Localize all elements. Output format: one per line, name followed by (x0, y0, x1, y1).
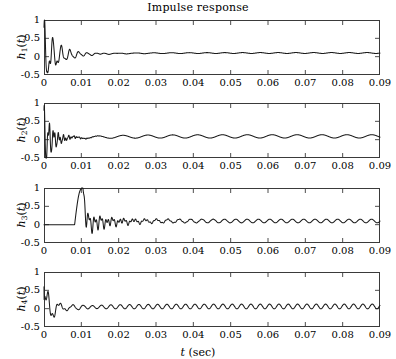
impulse-response-figure: Impulse response 10.50-0.5h1(t)00.010.02… (0, 0, 396, 359)
x-tick-label: 0.05 (211, 78, 251, 88)
plot-frame-h3 (44, 188, 380, 243)
x-tick-label: 0.06 (248, 78, 288, 88)
x-tick-label: 0 (24, 78, 64, 88)
y-axis-label-h4: h4(t) (15, 276, 29, 322)
x-tick-label: 0 (24, 161, 64, 171)
x-tick-label: 0.08 (323, 161, 363, 171)
x-tick-label: 0.08 (323, 78, 363, 88)
x-tick-label: 0.02 (99, 78, 139, 88)
x-tick-label: 0.06 (248, 330, 288, 340)
plot-frame-h4 (44, 272, 380, 327)
x-tick-label: 0.07 (285, 330, 325, 340)
x-tick-label: 0.06 (248, 161, 288, 171)
x-tick-label: 0.04 (173, 246, 213, 256)
x-tick-label: 0.07 (285, 246, 325, 256)
x-tick-label: 0.03 (136, 330, 176, 340)
x-tick-label: 0.05 (211, 330, 251, 340)
x-tick-label: 0.09 (360, 161, 396, 171)
x-tick-label: 0.04 (173, 78, 213, 88)
x-tick-label: 0.08 (323, 246, 363, 256)
x-tick-label: 0.03 (136, 246, 176, 256)
x-tick-label: 0.07 (285, 161, 325, 171)
x-tick-label: 0 (24, 330, 64, 340)
x-tick-label: 0.05 (211, 246, 251, 256)
figure-title: Impulse response (0, 1, 396, 14)
plot-frame-h2 (44, 103, 380, 158)
plot-frame-h1 (44, 20, 380, 75)
x-tick-label: 0.01 (61, 246, 101, 256)
x-axis-label: t (sec) (0, 346, 396, 359)
x-tick-label: 0.04 (173, 330, 213, 340)
y-axis-label-h1: h1(t) (15, 24, 29, 70)
x-tick-label: 0.08 (323, 330, 363, 340)
x-tick-label: 0.09 (360, 246, 396, 256)
x-tick-label: 0.02 (99, 330, 139, 340)
x-tick-label: 0.09 (360, 330, 396, 340)
x-tick-label: 0.07 (285, 78, 325, 88)
x-tick-label: 0.05 (211, 161, 251, 171)
x-tick-label: 0.03 (136, 161, 176, 171)
x-tick-label: 0 (24, 246, 64, 256)
x-tick-label: 0.06 (248, 246, 288, 256)
x-tick-label: 0.03 (136, 78, 176, 88)
x-tick-label: 0.02 (99, 161, 139, 171)
y-axis-label-h3: h3(t) (15, 192, 29, 238)
x-tick-label: 0.01 (61, 161, 101, 171)
y-axis-label-h2: h2(t) (15, 107, 29, 153)
x-tick-label: 0.02 (99, 246, 139, 256)
x-tick-label: 0.09 (360, 78, 396, 88)
x-tick-label: 0.01 (61, 78, 101, 88)
x-tick-label: 0.01 (61, 330, 101, 340)
x-tick-label: 0.04 (173, 161, 213, 171)
